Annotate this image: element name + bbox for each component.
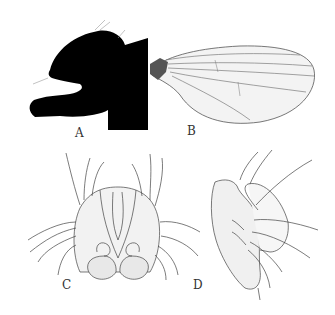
panel-a-silhouette: [30, 20, 148, 130]
figure-plate: A B C D: [0, 0, 335, 315]
panel-label-c: C: [62, 279, 71, 291]
panel-label-d: D: [193, 279, 203, 291]
panel-b-wing: [150, 46, 315, 123]
panel-label-a: A: [75, 127, 84, 139]
panel-label-b: B: [187, 125, 196, 137]
panel-d-genitalia: [211, 150, 318, 300]
panel-c-genitalia: [28, 153, 200, 280]
